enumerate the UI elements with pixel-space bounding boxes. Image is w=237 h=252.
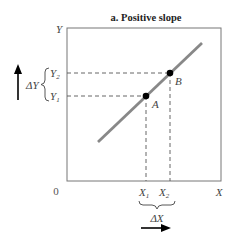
delta-y-brace xyxy=(41,68,49,101)
delta-x-label: ΔX xyxy=(149,212,164,224)
x1-label: X1 xyxy=(138,186,149,200)
point-b-label: B xyxy=(175,75,182,87)
y1-label: Y1 xyxy=(50,90,60,104)
point-b-marker xyxy=(167,70,174,77)
diagram-title: a. Positive slope xyxy=(111,12,182,23)
delta-y-label: ΔY xyxy=(25,79,40,91)
x-axis-label: X xyxy=(215,186,224,198)
point-a-label: A xyxy=(151,98,159,110)
origin-label: 0 xyxy=(53,185,59,197)
up-arrow-icon xyxy=(14,64,22,74)
x2-label: X2 xyxy=(158,186,170,200)
positive-slope-diagram: a. Positive slope Y X 0 A B Y2 Y1 ΔY X1 … xyxy=(0,0,237,252)
y2-label: Y2 xyxy=(50,67,60,81)
right-arrow-icon xyxy=(161,224,171,232)
y-axis-label: Y xyxy=(56,23,64,35)
plot-frame xyxy=(67,28,221,181)
positive-slope-line xyxy=(98,43,202,142)
point-a-marker xyxy=(143,93,150,100)
delta-x-brace xyxy=(139,201,175,209)
